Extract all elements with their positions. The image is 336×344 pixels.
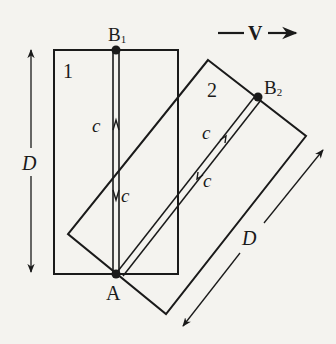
frame1-height-dimension: D <box>21 50 37 272</box>
frame1-height-label: D <box>21 152 37 174</box>
frame2-length-label: D <box>241 227 257 249</box>
frame2-label: 2 <box>207 79 217 101</box>
point-b1-label: B1 <box>108 24 126 45</box>
light-clock-diagram: V D 1 c c 2 c c D B1 B <box>0 0 336 344</box>
frame2-light-up-label: c <box>202 122 211 143</box>
point-a-label: A <box>106 282 121 304</box>
arrow-down-icon <box>113 190 119 200</box>
frame1-light-down-label: c <box>121 185 130 206</box>
frame2-light-down-label: c <box>203 170 212 191</box>
frame1-rectangle <box>54 50 178 274</box>
point-a-marker <box>112 270 121 279</box>
frame1-light-path <box>113 50 119 274</box>
point-b2-marker <box>254 93 263 102</box>
arrow-up-icon <box>113 120 119 130</box>
velocity-label: V <box>248 22 263 44</box>
point-b2-label: B2 <box>264 77 282 98</box>
frame2-rectangle <box>68 60 306 314</box>
frame1-light-up-label: c <box>92 115 101 136</box>
frame1-label: 1 <box>63 60 73 82</box>
velocity-arrow: V <box>218 22 296 44</box>
frame2-light-path <box>118 95 261 276</box>
point-b1-marker <box>112 46 121 55</box>
